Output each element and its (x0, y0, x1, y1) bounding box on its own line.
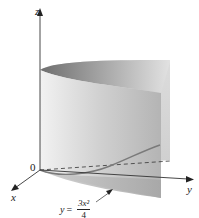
y-axis-arrow-icon (186, 176, 194, 183)
equation-label: y = 3x² 4 (60, 199, 90, 218)
diagram-canvas (0, 0, 199, 218)
x-axis (15, 170, 40, 188)
equation-numerator: 3x² (77, 199, 90, 210)
x-axis-label: x (11, 192, 16, 203)
z-axis-label: z (35, 6, 39, 17)
equation-equals: = (66, 204, 72, 215)
origin-label: 0 (30, 162, 36, 173)
equation-lhs: y (60, 204, 64, 215)
equation-fraction: 3x² 4 (77, 199, 90, 218)
y-axis-label: y (187, 184, 192, 195)
equation-denominator: 4 (81, 210, 86, 218)
x-axis-arrow-icon (11, 184, 19, 191)
